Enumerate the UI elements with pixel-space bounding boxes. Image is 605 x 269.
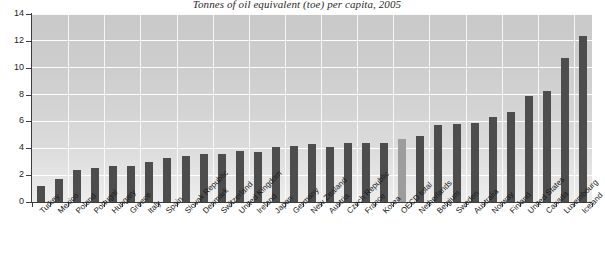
bar-canada[interactable] (543, 91, 551, 202)
plot-area (32, 14, 592, 202)
gridline-vertical (285, 14, 286, 202)
x-axis-tick (213, 203, 214, 207)
bar-finland[interactable] (507, 112, 515, 202)
x-axis-tick (592, 203, 593, 207)
y-axis-tick (26, 175, 32, 176)
gridline-vertical (68, 14, 69, 202)
x-axis-tick (393, 203, 394, 207)
y-axis-tick (26, 121, 32, 122)
y-axis-tick (26, 148, 32, 149)
x-axis-tick (538, 203, 539, 207)
y-axis-tick-label: 10 (0, 62, 24, 72)
x-axis-tick (339, 203, 340, 207)
bar-new-zealand[interactable] (308, 144, 316, 202)
y-axis-tick-label: 12 (0, 35, 24, 45)
x-axis-tick (574, 203, 575, 207)
gridline-vertical (466, 14, 467, 202)
x-axis-line (31, 202, 592, 203)
x-axis-tick (231, 203, 232, 207)
gridline-horizontal (32, 14, 592, 15)
bar-belgium[interactable] (434, 125, 442, 202)
x-axis-tick (50, 203, 51, 207)
y-axis-tick (26, 95, 32, 96)
y-axis-tick (26, 68, 32, 69)
x-axis-tick (86, 203, 87, 207)
bar-australia[interactable] (471, 123, 479, 202)
x-axis-tick (375, 203, 376, 207)
gridline-horizontal (32, 94, 592, 95)
bar-italy[interactable] (145, 162, 153, 202)
gridline-vertical (249, 14, 250, 202)
x-axis-tick (104, 203, 105, 207)
bar-luxembourg[interactable] (561, 58, 569, 202)
x-axis-tick (32, 203, 33, 207)
bar-sweden[interactable] (453, 124, 461, 202)
gridline-horizontal (32, 67, 592, 68)
bar-portugal[interactable] (91, 168, 99, 202)
gridline-vertical (321, 14, 322, 202)
gridline-vertical (574, 14, 575, 202)
y-axis-tick-label: 8 (0, 89, 24, 99)
gridline-vertical (104, 14, 105, 202)
x-axis-tick (249, 203, 250, 207)
x-axis-tick (195, 203, 196, 207)
gridline-horizontal (32, 40, 592, 41)
gridline-vertical (502, 14, 503, 202)
bar-united-kingdom[interactable] (236, 151, 244, 202)
x-axis-tick (321, 203, 322, 207)
x-axis-tick (285, 203, 286, 207)
gridline-vertical (177, 14, 178, 202)
bar-czech-republic[interactable] (344, 143, 352, 202)
gridline-vertical (140, 14, 141, 202)
bar-poland[interactable] (73, 170, 81, 202)
bar-hungary[interactable] (109, 166, 117, 202)
bar-korea[interactable] (380, 143, 388, 202)
bar-turkey[interactable] (37, 186, 45, 202)
y-axis-tick-label: 2 (0, 169, 24, 179)
y-axis-tick (26, 14, 32, 15)
y-axis-tick-label: 0 (0, 196, 24, 206)
bar-oecd-total[interactable] (398, 139, 406, 202)
bar-united-states[interactable] (525, 96, 533, 202)
bar-greece[interactable] (127, 166, 135, 202)
x-axis-tick (556, 203, 557, 207)
gridline-vertical (213, 14, 214, 202)
x-axis-tick (122, 203, 123, 207)
x-axis-tick (357, 203, 358, 207)
y-axis-tick (26, 41, 32, 42)
x-axis-tick (484, 203, 485, 207)
bar-austria[interactable] (326, 147, 334, 202)
bar-iceland[interactable] (579, 36, 587, 203)
bar-ireland[interactable] (254, 152, 262, 202)
bar-slovak-republic[interactable] (182, 156, 190, 202)
bar-netherlands[interactable] (416, 136, 424, 202)
x-axis-tick (411, 203, 412, 207)
bar-denmark[interactable] (200, 154, 208, 202)
bar-mexico[interactable] (55, 179, 63, 202)
gridline-vertical (429, 14, 430, 202)
x-axis-tick (447, 203, 448, 207)
y-axis-tick-label: 4 (0, 142, 24, 152)
x-axis-tick (520, 203, 521, 207)
bar-spain[interactable] (163, 158, 171, 202)
bar-switzerland[interactable] (218, 154, 226, 202)
x-axis-tick (303, 203, 304, 207)
x-axis-tick (267, 203, 268, 207)
x-axis-tick (140, 203, 141, 207)
bar-france[interactable] (362, 143, 370, 202)
x-axis-tick (429, 203, 430, 207)
gridline-vertical (538, 14, 539, 202)
gridline-vertical (393, 14, 394, 202)
bar-norway[interactable] (489, 117, 497, 202)
chart-title: Tonnes of oil equivalent (toe) per capit… (0, 0, 594, 10)
y-axis-tick-label: 14 (0, 8, 24, 18)
bar-germany[interactable] (290, 146, 298, 202)
y-axis-tick-label: 6 (0, 115, 24, 125)
gridline-vertical (357, 14, 358, 202)
x-axis-tick (502, 203, 503, 207)
x-axis-tick (68, 203, 69, 207)
bar-japan[interactable] (272, 147, 280, 202)
x-axis-tick (466, 203, 467, 207)
x-axis-tick (177, 203, 178, 207)
